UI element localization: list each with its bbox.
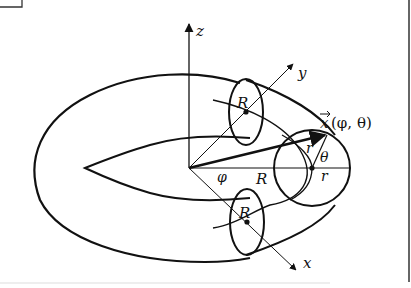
label-R-center: R [255,170,267,188]
figure-frame [0,0,409,283]
label-R-top: R [236,94,248,112]
label-position-vector: x (φ, θ) [320,111,372,132]
label-vector-args: (φ, θ) [331,114,372,132]
label-phi: φ [217,169,227,185]
label-z-axis: z [195,22,204,40]
center-dot-right [309,165,314,170]
tube-bottom-edge [246,205,335,255]
label-R-bottom: R [238,204,250,222]
label-y-axis: y [297,64,307,82]
label-theta: θ [320,149,329,165]
diagram-canvas: z y x R R R φ r θ r x (φ, θ) [0,0,411,288]
label-x-axis: x [303,254,312,272]
